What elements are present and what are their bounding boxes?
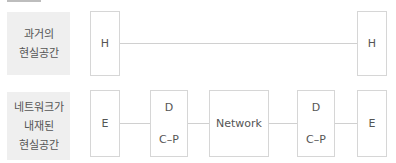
node-label: H xyxy=(101,37,109,50)
node-d-cp-right: D C–P xyxy=(297,90,335,157)
node-e-left: E xyxy=(90,90,120,157)
connector-line xyxy=(120,43,357,44)
node-e-right: E xyxy=(357,90,387,157)
node-label: H xyxy=(368,37,376,50)
node-label: Network xyxy=(216,117,262,130)
node-label: E xyxy=(369,117,376,130)
node-h-right: H xyxy=(357,11,387,76)
header-accent-bar xyxy=(7,0,41,2)
node-label: E xyxy=(102,117,109,130)
node-label-top: D xyxy=(312,101,320,114)
node-h-left: H xyxy=(90,11,120,76)
row-label-networked-space: 네트워크가 내재된 현실공간 xyxy=(7,92,70,160)
label-line: 네트워크가 xyxy=(14,98,64,117)
node-label-bottom: C–P xyxy=(159,133,179,146)
node-label-top: D xyxy=(165,101,173,114)
node-network: Network xyxy=(209,90,269,157)
label-line: 내재된 xyxy=(24,117,54,136)
node-label-bottom: C–P xyxy=(306,133,326,146)
row-label-past-space: 과거의 현실공간 xyxy=(7,12,70,75)
label-line: 현실공간 xyxy=(19,136,59,155)
node-d-cp-left: D C–P xyxy=(150,90,188,157)
label-line: 현실공간 xyxy=(19,44,59,63)
label-line: 과거의 xyxy=(24,25,54,44)
